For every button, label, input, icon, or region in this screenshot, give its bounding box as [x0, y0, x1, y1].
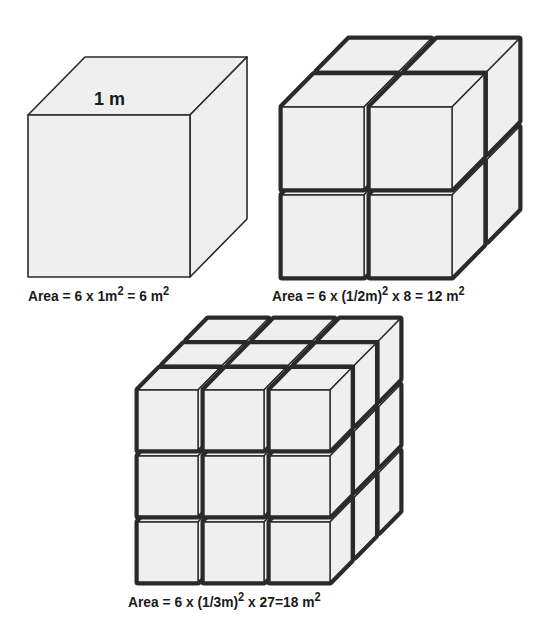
- cubes-diagram: [0, 0, 554, 638]
- edge-length-label: 1 m: [94, 89, 125, 110]
- caption-text: Area = 6 x 1m: [28, 287, 117, 304]
- caption-text: x 27=18 m: [244, 593, 314, 610]
- caption-text: = 6 m: [124, 287, 164, 304]
- caption-text: Area = 6 x (1/3m): [128, 593, 238, 610]
- caption-cube-2: Area = 6 x (1/2m)2 x 8 = 12 m2: [272, 287, 465, 304]
- cube-3: [138, 319, 400, 582]
- exponent: 2: [314, 590, 320, 604]
- caption-cube-1: Area = 6 x 1m2 = 6 m2: [28, 287, 169, 304]
- caption-text: Area = 6 x (1/2m): [272, 287, 382, 304]
- caption-cube-3: Area = 6 x (1/3m)2 x 27=18 m2: [128, 593, 321, 610]
- exponent: 2: [458, 284, 464, 298]
- caption-text: x 8 = 12 m: [388, 287, 458, 304]
- exponent: 2: [163, 284, 169, 298]
- cube-1: [28, 57, 247, 277]
- cube-2: [282, 39, 519, 277]
